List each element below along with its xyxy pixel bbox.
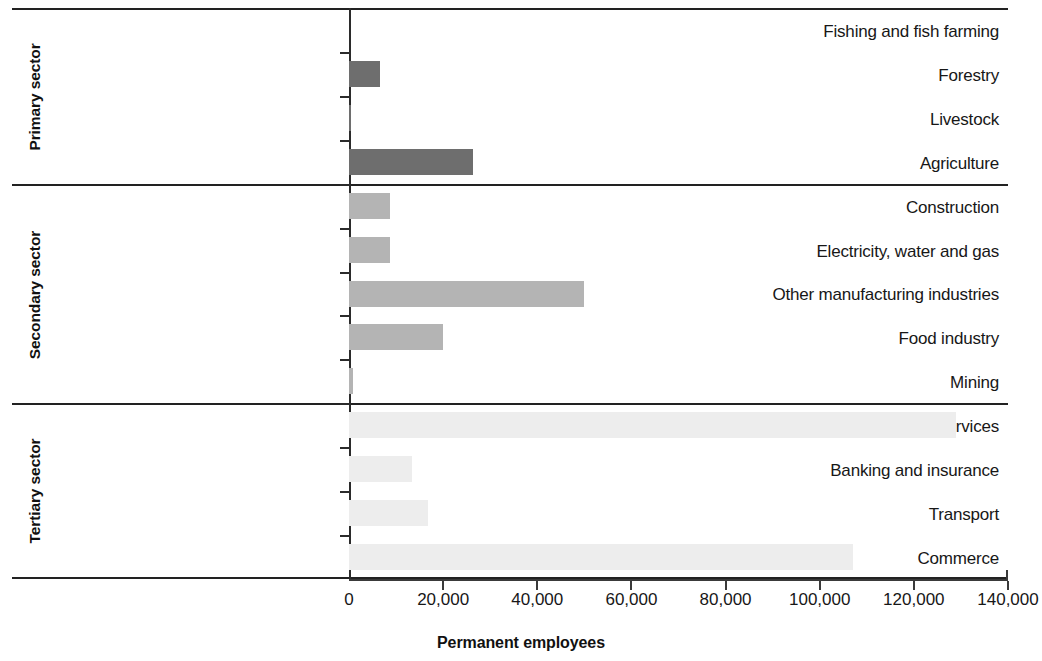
x-axis-tick <box>819 581 821 590</box>
x-axis-tick <box>725 581 727 590</box>
category-row: Food industry <box>12 317 1008 361</box>
category-label: Food industry <box>677 329 1008 349</box>
x-axis-tick <box>913 581 915 590</box>
category-row: Agriculture <box>12 142 1008 186</box>
y-axis-tick <box>340 228 349 230</box>
y-axis-tick <box>340 315 349 317</box>
y-axis-tick <box>340 52 349 54</box>
x-axis-end-cap <box>1006 570 1008 579</box>
category-row: Construction <box>12 186 1008 230</box>
category-row: Forestry <box>12 54 1008 98</box>
x-axis-tick-label: 60,000 <box>605 590 657 610</box>
bar-livestock <box>349 105 351 131</box>
bar-transport <box>349 500 428 526</box>
category-row: Banking and insurance <box>12 449 1008 493</box>
category-label: Forestry <box>677 66 1008 86</box>
y-axis-tick <box>340 184 349 186</box>
category-label: Electricity, water and gas <box>677 242 1008 262</box>
bar-food-industry <box>349 324 443 350</box>
y-axis-tick <box>340 272 349 274</box>
y-axis-tick <box>340 447 349 449</box>
sector-group-primary-sector: Primary sectorFishing and fish farmingFo… <box>12 8 1008 184</box>
category-label: Mining <box>677 373 1008 393</box>
y-axis-tick <box>340 535 349 537</box>
category-row: Fishing and fish farming <box>12 10 1008 54</box>
category-label: Agriculture <box>677 154 1008 174</box>
y-axis-tick <box>340 403 349 405</box>
y-axis-tick <box>340 96 349 98</box>
x-axis-tick-label: 120,000 <box>883 590 944 610</box>
x-axis-tick-label: 40,000 <box>511 590 563 610</box>
category-label: Transport <box>677 505 1008 525</box>
x-axis-tick <box>536 581 538 590</box>
y-axis-tick <box>340 359 349 361</box>
category-row: Livestock <box>12 98 1008 142</box>
x-axis-tick-label: 20,000 <box>417 590 469 610</box>
category-label: Banking and insurance <box>677 461 1008 481</box>
chart-container: Primary sectorFishing and fish farmingFo… <box>0 0 1042 661</box>
bar-other-manufacturing-industries <box>349 281 584 307</box>
category-row: Transport <box>12 493 1008 537</box>
bar-construction <box>349 193 390 219</box>
bar-other-services <box>349 412 956 438</box>
x-axis-tick-label: 0 <box>344 590 353 610</box>
bar-electricity-water-and-gas <box>349 237 390 263</box>
x-axis-tick <box>630 581 632 590</box>
x-axis-tick-label: 140,000 <box>977 590 1038 610</box>
y-axis-tick <box>340 491 349 493</box>
x-axis-tick-label: 100,000 <box>789 590 850 610</box>
category-label: Construction <box>677 198 1008 218</box>
category-row: Electricity, water and gas <box>12 230 1008 274</box>
x-axis-line <box>349 579 1008 581</box>
category-label: Other manufacturing industries <box>677 285 1008 305</box>
category-label: Fishing and fish farming <box>677 22 1008 42</box>
bar-agriculture <box>349 149 473 175</box>
y-axis-tick <box>340 140 349 142</box>
x-axis-tick <box>442 581 444 590</box>
bar-commerce <box>349 544 853 570</box>
bar-forestry <box>349 61 380 87</box>
bar-mining <box>349 368 353 394</box>
bar-banking-and-insurance <box>349 456 412 482</box>
x-axis-tick <box>1007 581 1009 590</box>
x-axis-title: Permanent employees <box>0 634 1042 652</box>
x-axis-tick-label: 80,000 <box>700 590 752 610</box>
category-label: Livestock <box>677 110 1008 130</box>
category-row: Mining <box>12 361 1008 405</box>
